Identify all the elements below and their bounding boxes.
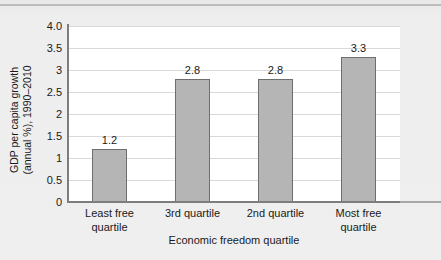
gridline bbox=[68, 26, 400, 27]
y-axis-tick-label: 4.0 bbox=[2, 20, 62, 32]
x-axis-tick-label-line: Least free bbox=[65, 206, 155, 220]
bar bbox=[341, 57, 376, 202]
x-axis-title: Economic freedom quartile bbox=[68, 234, 400, 246]
top-page-rule bbox=[0, 4, 441, 6]
x-axis-tick-label-line: 2nd quartile bbox=[231, 206, 321, 220]
x-axis-tick-label-line: 3rd quartile bbox=[148, 206, 238, 220]
bar bbox=[258, 79, 293, 202]
bar-value-label: 2.8 bbox=[163, 64, 223, 76]
bar-value-label: 2.8 bbox=[246, 64, 306, 76]
x-axis-tick-label: 3rd quartile bbox=[148, 206, 238, 220]
bar-value-label: 1.2 bbox=[80, 134, 140, 146]
y-axis-title-line-2: (annual %), 1990–2010 bbox=[21, 40, 34, 200]
bar-value-label: 3.3 bbox=[329, 42, 389, 54]
x-axis-tick-label-line: quartile bbox=[65, 220, 155, 234]
x-axis-line bbox=[67, 201, 402, 203]
y-axis-title: GDP per capita growth (annual %), 1990–2… bbox=[8, 40, 38, 200]
y-axis-title-line-1: GDP per capita growth bbox=[8, 40, 21, 200]
x-axis-tick-label: Least freequartile bbox=[65, 206, 155, 234]
x-axis-tick-label-line: Most free bbox=[314, 206, 404, 220]
x-axis-line-extension bbox=[400, 201, 441, 203]
y-axis-line bbox=[67, 24, 69, 203]
x-axis-tick-label-line: quartile bbox=[314, 220, 404, 234]
bar bbox=[175, 79, 210, 202]
x-axis-tick-label: 2nd quartile bbox=[231, 206, 321, 220]
bar bbox=[92, 149, 127, 202]
x-axis-tick-label: Most freequartile bbox=[314, 206, 404, 234]
